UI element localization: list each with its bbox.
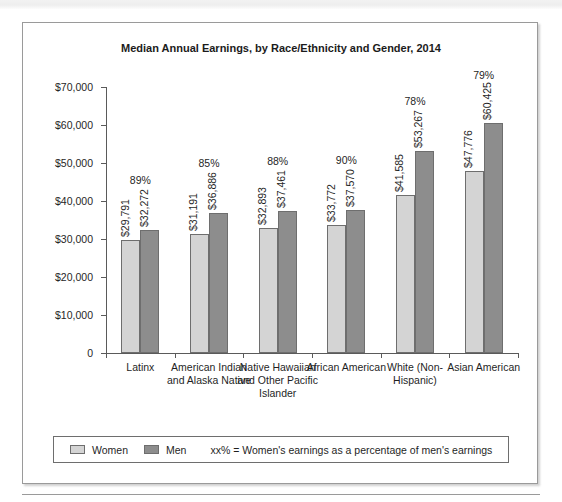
chart-figure-frame: Median Annual Earnings, by Race/Ethnicit… (22, 22, 538, 484)
bar-men[interactable]: $37,461 (278, 211, 297, 353)
bar-group: $29,791$32,27289%Latinx (106, 87, 175, 353)
legend-note: xx% = Women's earnings as a percentage o… (210, 444, 492, 456)
bar-women[interactable]: $41,585 (396, 195, 415, 353)
x-axis-tick (106, 353, 107, 358)
y-axis-tick-label: $50,000 (55, 157, 93, 169)
bar-value-label: $31,191 (187, 194, 199, 232)
legend-swatch-women-icon (70, 445, 85, 454)
bar-men[interactable]: $36,886 (209, 213, 228, 353)
x-axis-tick (175, 353, 176, 358)
y-axis-tick-label: 0 (87, 347, 93, 359)
bar-value-label: $32,272 (138, 189, 150, 227)
bar-group: $47,776$60,42579%Asian American (449, 87, 518, 353)
chart-legend: Women Men xx% = Women's earnings as a pe… (53, 436, 509, 463)
top-caption-strip (0, 0, 562, 9)
legend-label-women: Women (92, 444, 128, 456)
y-axis-tick-label: $10,000 (55, 309, 93, 321)
chart-title: Median Annual Earnings, by Race/Ethnicit… (23, 42, 539, 54)
bar-group: $32,893$37,46188%Native Hawaiian and Oth… (243, 87, 312, 353)
x-axis-tick (518, 353, 519, 358)
bar-value-label: $41,585 (393, 154, 405, 192)
y-axis-tick-label: $60,000 (55, 119, 93, 131)
bar-value-label: $60,425 (481, 82, 493, 120)
x-axis-tick (312, 353, 313, 358)
bar-value-label: $33,772 (325, 184, 337, 222)
legend-item-women: Women (70, 444, 128, 456)
bar-value-label: $53,267 (412, 110, 424, 148)
bar-group: $41,585$53,26778%White (Non-Hispanic) (381, 87, 450, 353)
bar-men[interactable]: $60,425 (484, 123, 503, 353)
ratio-annotation: 90% (336, 154, 357, 166)
ratio-annotation: 88% (267, 155, 288, 167)
bar-women[interactable]: $32,893 (259, 228, 278, 353)
legend-label-men: Men (166, 444, 186, 456)
bar-value-label: $37,461 (275, 170, 287, 208)
bar-women[interactable]: $31,191 (190, 234, 209, 353)
x-axis-tick (381, 353, 382, 358)
y-axis-tick-label: $30,000 (55, 233, 93, 245)
bar-value-label: $29,791 (119, 199, 131, 237)
y-axis-tick-label: $70,000 (55, 81, 93, 93)
plot-area: $70,000$60,000$50,000$40,000$30,000$20,0… (106, 87, 518, 353)
bar-value-label: $47,776 (462, 130, 474, 168)
x-axis-category-label: Asian American (436, 361, 532, 374)
bar-men[interactable]: $32,272 (140, 230, 159, 353)
bar-women[interactable]: $47,776 (465, 171, 484, 353)
bar-group: $33,772$37,57090%African American (312, 87, 381, 353)
ratio-annotation: 89% (130, 174, 151, 186)
bar-men[interactable]: $37,570 (346, 210, 365, 353)
legend-swatch-men-icon (144, 445, 159, 454)
bar-women[interactable]: $33,772 (327, 225, 346, 353)
ratio-annotation: 78% (404, 95, 425, 107)
bar-men[interactable]: $53,267 (415, 151, 434, 353)
x-axis-tick (243, 353, 244, 358)
ratio-annotation: 85% (198, 157, 219, 169)
bar-value-label: $36,886 (206, 172, 218, 210)
bar-women[interactable]: $29,791 (121, 240, 140, 353)
y-axis-tick-label: $20,000 (55, 271, 93, 283)
x-axis-tick (449, 353, 450, 358)
bottom-separator-rule (22, 494, 540, 495)
y-axis-tick-label: $40,000 (55, 195, 93, 207)
bar-value-label: $37,570 (344, 169, 356, 207)
ratio-annotation: 79% (473, 69, 494, 81)
bar-group: $31,191$36,88685%American Indian and Ala… (175, 87, 244, 353)
legend-item-men: Men (144, 444, 186, 456)
bar-value-label: $32,893 (256, 187, 268, 225)
